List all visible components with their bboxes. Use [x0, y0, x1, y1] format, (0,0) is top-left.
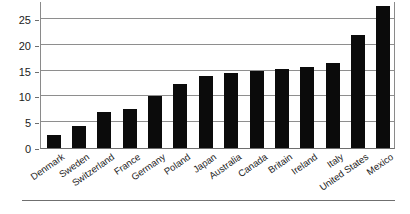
bar	[199, 76, 213, 148]
y-tick-label: 10	[19, 91, 31, 103]
bar	[376, 6, 390, 148]
y-tick-label: 15	[19, 66, 31, 78]
bar	[326, 63, 340, 148]
bar	[351, 35, 365, 148]
bar	[47, 135, 61, 148]
x-tick-label: Poland	[162, 151, 193, 177]
x-tick-label: Denmark	[28, 151, 66, 182]
y-tick-mark	[35, 46, 39, 47]
bar	[148, 96, 162, 148]
y-tick-mark	[35, 97, 39, 98]
plot-area	[40, 2, 395, 149]
x-tick-label: Mexico	[365, 151, 396, 177]
y-tick-mark	[35, 149, 39, 150]
y-axis: 0510152025	[0, 0, 40, 152]
bar	[173, 84, 187, 148]
y-tick-mark	[35, 72, 39, 73]
bar	[224, 73, 238, 148]
bar-chart-figure: 0510152025 DenmarkSwedenSwitzerlandFranc…	[0, 0, 410, 214]
bar	[72, 126, 86, 148]
bar	[97, 112, 111, 148]
bars-group	[41, 2, 394, 148]
y-tick-label: 20	[19, 40, 31, 52]
bar	[250, 71, 264, 148]
bar	[275, 69, 289, 148]
bar	[123, 109, 137, 148]
footer-divider	[22, 200, 395, 201]
x-tick-label: Britain	[266, 151, 294, 175]
y-tick-mark	[35, 123, 39, 124]
x-tick-label: Ireland	[289, 151, 319, 177]
x-axis: DenmarkSwedenSwitzerlandFranceGermanyPol…	[40, 149, 395, 199]
y-tick-label: 0	[25, 143, 31, 155]
bar	[300, 67, 314, 148]
y-tick-label: 25	[19, 14, 31, 26]
y-tick-mark	[35, 20, 39, 21]
y-tick-label: 5	[25, 117, 31, 129]
